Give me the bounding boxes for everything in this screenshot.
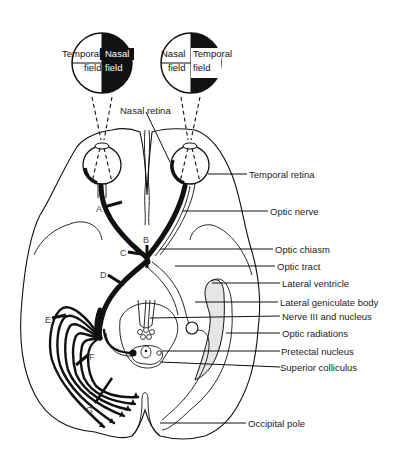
label-optic-chiasm: Optic chiasm: [275, 244, 330, 255]
lesion-label-g: G: [86, 405, 93, 415]
right-temporal-field-sub: field: [193, 62, 210, 73]
right-nasal-field-sub: field: [168, 62, 185, 73]
left-visual-field: Temporal field Nasal field: [62, 33, 134, 93]
right-temporal-lobe: [190, 225, 252, 275]
left-nasal-field-sub: field: [105, 62, 122, 73]
right-eye: [171, 143, 209, 184]
left-temporal-field-label: Temporal: [62, 48, 101, 59]
lesion-label-c: C: [120, 248, 127, 258]
lesion-label-d: D: [100, 270, 107, 280]
brain-outline: [21, 129, 260, 439]
lesion-label-b: B: [143, 235, 149, 245]
label-lateral-geniculate-body: Lateral geniculate body: [280, 297, 378, 308]
lesion-label-a: A: [96, 204, 102, 214]
leader-lines: [146, 112, 280, 423]
right-optic-nerve: [148, 186, 185, 256]
label-superior-colliculus: Superior colliculus: [280, 362, 357, 373]
label-lateral-ventricle: Lateral ventricle: [282, 278, 349, 289]
right-optic-tract: [148, 262, 190, 325]
left-temporal-field-sub: field: [84, 62, 101, 73]
longitudinal-fissure: [144, 130, 149, 225]
field-projection-lines: [92, 97, 200, 140]
left-nasal-field-label: Nasal: [105, 48, 129, 59]
label-optic-radiations: Optic radiations: [282, 328, 348, 339]
right-temporal-field-label: Temporal: [193, 48, 232, 59]
left-temporal-lobe: [34, 222, 102, 255]
label-temporal-retina: Temporal retina: [249, 169, 315, 180]
left-optic-radiations: [50, 307, 138, 427]
lateral-geniculate-body: [186, 322, 198, 334]
right-nasal-field-label: Nasal: [161, 48, 185, 59]
label-pretectal-nucleus: Pretectal nucleus: [281, 346, 354, 357]
label-optic-nerve: Optic nerve: [270, 206, 319, 217]
diagram-canvas: Temporal field Nasal field Nasal field T…: [0, 0, 398, 454]
lesion-label-f: F: [89, 352, 95, 362]
visual-pathway-diagram: Temporal field Nasal field Nasal field T…: [0, 0, 398, 454]
label-nasal-retina: Nasal retina: [120, 105, 171, 116]
lesion-label-e: E: [45, 315, 51, 325]
label-nerve-iii: Nerve III and nucleus: [282, 311, 372, 322]
right-visual-field: Nasal field Temporal field: [161, 33, 232, 93]
label-occipital-pole: Occipital pole: [248, 418, 305, 429]
midbrain: [120, 300, 178, 368]
label-optic-tract: Optic tract: [277, 261, 321, 272]
